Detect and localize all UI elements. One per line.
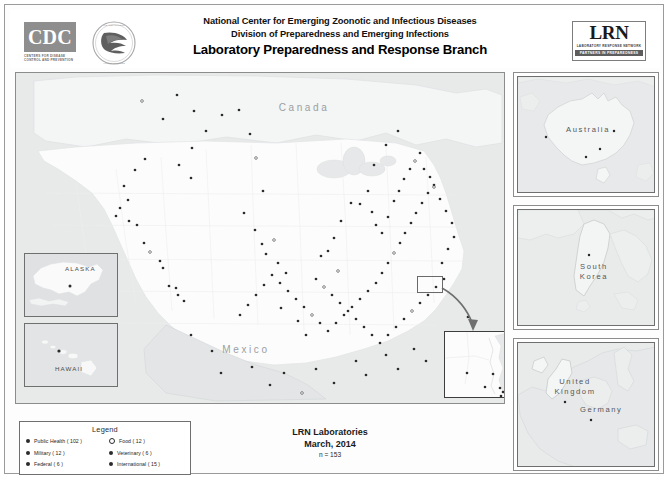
inset-alaska[interactable]: ALASKA (24, 253, 118, 317)
lab-site-marker (453, 236, 456, 239)
lab-site-marker (287, 290, 290, 293)
lab-site-marker (359, 298, 362, 301)
lab-site-marker (149, 251, 152, 254)
lab-site-marker (466, 372, 469, 375)
lab-site-marker (178, 164, 181, 167)
lab-site-marker (265, 253, 268, 256)
header-line-2: Division of Preparedness and Emerging In… (160, 28, 520, 41)
legend-item-international[interactable]: International ( 15 ) (109, 459, 190, 471)
lab-site-marker (127, 199, 130, 202)
dc-callout-box[interactable] (417, 276, 443, 293)
lab-site-marker (502, 391, 505, 394)
lab-site-marker (375, 224, 378, 227)
lab-site-marker (385, 144, 388, 147)
footer-count: n = 153 (235, 450, 425, 460)
lab-site-marker (421, 202, 424, 205)
lab-site-marker (335, 322, 338, 325)
main-map-us[interactable]: Canada Mexico ALASKA (15, 72, 505, 404)
footer-title-block: LRN Laboratories March, 2014 n = 153 (235, 426, 425, 460)
lab-site-marker (269, 384, 272, 387)
lab-site-marker (175, 287, 178, 290)
footer-date: March, 2014 (235, 438, 425, 450)
panel-europe[interactable]: United Kingdom Germany (513, 338, 659, 471)
lab-site-marker (273, 239, 276, 242)
lab-site-marker (599, 148, 602, 151)
header-line-1: National Center for Emerging Zoonotic an… (160, 15, 520, 28)
legend-label-international: International ( 15 ) (117, 461, 160, 467)
lab-site-marker (283, 372, 286, 375)
lab-site-marker (371, 334, 374, 337)
lab-site-marker (439, 198, 442, 201)
lab-site-marker (143, 242, 146, 245)
lab-site-marker (168, 285, 171, 288)
lab-site-marker (365, 374, 368, 377)
lrn-wordmark: LRN (573, 22, 645, 44)
lab-site-marker (320, 255, 323, 258)
lab-site-marker (343, 314, 346, 317)
lab-site-marker (443, 278, 446, 281)
legend-title: Legend (20, 425, 190, 434)
header-line-3: Laboratory Preparedness and Response Bra… (160, 41, 520, 58)
lab-site-marker (387, 334, 390, 337)
lab-site-marker (311, 314, 314, 317)
lab-site-marker (331, 294, 334, 297)
lab-site-marker (351, 306, 354, 309)
legend-item-federal[interactable]: Federal ( 6 ) (26, 459, 107, 471)
lab-site-marker (261, 243, 264, 246)
inset-dc-metro[interactable] (444, 331, 505, 398)
inset-hawaii[interactable]: HAWAII (24, 323, 118, 387)
lab-site-marker (373, 164, 376, 167)
lab-site-marker (350, 202, 353, 205)
lab-site-marker (590, 419, 593, 422)
cdc-logo: CDC CENTERS FOR DISEASE CONTROL AND PREV… (24, 20, 152, 66)
lab-site-marker (128, 220, 131, 223)
poster-page: CDC CENTERS FOR DISEASE CONTROL AND PREV… (0, 0, 668, 478)
header-titles: National Center for Emerging Zoonotic an… (160, 15, 520, 58)
lab-site-marker (340, 220, 343, 223)
legend-marker-filled-icon (26, 451, 30, 455)
lab-site-marker (425, 360, 428, 363)
lab-site-marker (255, 157, 258, 160)
lab-site-marker (337, 270, 340, 273)
panel-label-uk-line2: Kingdom (540, 387, 610, 397)
legend-marker-open-icon (109, 438, 115, 444)
lab-site-marker (280, 307, 283, 310)
lab-site-marker (403, 318, 406, 321)
lab-site-marker (379, 342, 382, 345)
lab-site-marker (315, 368, 318, 371)
panel-south-korea[interactable]: South Korea (513, 205, 659, 330)
lab-site-marker (359, 203, 362, 206)
legend-label-veterinary: Veterinary ( 6 ) (117, 450, 152, 456)
legend-item-military[interactable]: Military ( 12 ) (26, 447, 107, 459)
lab-site-marker (585, 156, 588, 159)
header: CDC CENTERS FOR DISEASE CONTROL AND PREV… (10, 10, 660, 68)
footer-title: LRN Laboratories (235, 426, 425, 438)
legend-label-military: Military ( 12 ) (34, 450, 65, 456)
lab-site-marker (427, 294, 430, 297)
lab-site-marker (545, 136, 548, 139)
legend-item-food[interactable]: Food ( 12 ) (109, 436, 190, 448)
lab-site-marker (399, 242, 402, 245)
lab-site-marker (190, 334, 193, 337)
legend-item-public-health[interactable]: Public Health ( 102 ) (26, 436, 107, 448)
lab-site-marker (315, 278, 318, 281)
lab-site-marker (162, 267, 165, 270)
lab-site-marker (355, 318, 358, 321)
legend-item-veterinary[interactable]: Veterinary ( 6 ) (109, 447, 190, 459)
lab-site-marker (243, 212, 246, 215)
lab-site-marker (277, 262, 280, 265)
lab-site-marker (144, 158, 147, 161)
cdc-tagline: CENTERS FOR DISEASE CONTROL AND PREVENTI… (24, 54, 78, 63)
lab-site-marker (205, 130, 208, 133)
lab-site-marker (375, 282, 378, 285)
lab-site-marker (190, 177, 193, 180)
lab-site-marker (177, 294, 180, 297)
lab-site-marker (367, 190, 370, 193)
legend-grid: Public Health ( 102 ) Military ( 12 ) Fe… (20, 436, 190, 471)
panel-australia[interactable]: Australia (513, 72, 659, 197)
lab-site-marker (447, 248, 450, 251)
lab-site-marker (123, 185, 126, 188)
lab-site-marker (211, 350, 214, 353)
lab-site-marker (262, 190, 265, 193)
legend: Legend Public Health ( 102 ) Military ( … (19, 421, 191, 475)
